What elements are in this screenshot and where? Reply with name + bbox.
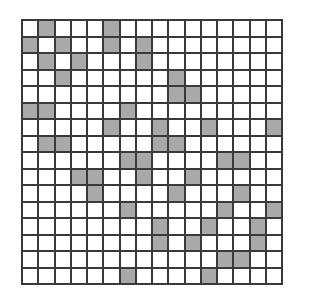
grid-cell-empty (71, 251, 87, 268)
grid-cell-filled (266, 202, 282, 219)
grid-cell-filled (71, 169, 87, 186)
grid-cell-filled (266, 119, 282, 136)
grid-cell-empty (71, 235, 87, 252)
grid-cell-empty (233, 37, 249, 54)
grid-cell-empty (136, 70, 152, 87)
grid-cell-empty (103, 103, 119, 120)
grid-cell-empty (38, 185, 54, 202)
grid-cell-empty (152, 169, 168, 186)
grid-cell-filled (217, 152, 233, 169)
grid-cell-empty (233, 268, 249, 285)
grid-cell-empty (168, 37, 184, 54)
grid-cell-filled (38, 136, 54, 153)
grid-cell-empty (266, 103, 282, 120)
grid-cell-empty (185, 37, 201, 54)
grid-cell-empty (217, 136, 233, 153)
grid-cell-empty (120, 37, 136, 54)
grid-cell-empty (233, 218, 249, 235)
grid-cell-filled (168, 86, 184, 103)
grid-cell-empty (87, 202, 103, 219)
grid-cell-empty (55, 235, 71, 252)
grid-cell-empty (250, 169, 266, 186)
grid-cell-filled (217, 251, 233, 268)
grid-cell-empty (217, 20, 233, 37)
grid-cell-empty (233, 53, 249, 70)
grid-cell-filled (136, 37, 152, 54)
grid-cell-filled (120, 103, 136, 120)
grid-cell-empty (22, 235, 38, 252)
grid-cell-empty (120, 53, 136, 70)
grid-cell-empty (38, 268, 54, 285)
grid-cell-empty (22, 20, 38, 37)
grid-cell-empty (136, 251, 152, 268)
grid-cell-empty (136, 20, 152, 37)
grid-cell-empty (55, 152, 71, 169)
grid-cell-empty (185, 20, 201, 37)
grid-cell-empty (22, 70, 38, 87)
grid-cell-empty (38, 202, 54, 219)
grid-cell-empty (103, 136, 119, 153)
grid-cell-empty (120, 70, 136, 87)
grid-cell-empty (266, 185, 282, 202)
grid-cell-empty (185, 70, 201, 87)
grid-cell-filled (22, 103, 38, 120)
grid-cell-empty (201, 202, 217, 219)
grid-cell-empty (55, 169, 71, 186)
grid-cell-empty (201, 103, 217, 120)
grid-cell-empty (87, 70, 103, 87)
grid-cell-filled (233, 152, 249, 169)
grid-cell-empty (55, 20, 71, 37)
grid-cell-empty (22, 119, 38, 136)
grid-cell-empty (266, 86, 282, 103)
grid-cell-filled (201, 119, 217, 136)
grid-cell-empty (266, 251, 282, 268)
grid-cell-empty (22, 86, 38, 103)
grid-cell-empty (217, 70, 233, 87)
grid-cell-filled (103, 20, 119, 37)
grid-cell-empty (185, 119, 201, 136)
grid-cell-empty (201, 169, 217, 186)
grid-cell-empty (55, 251, 71, 268)
grid-cell-filled (152, 136, 168, 153)
grid-cell-filled (152, 235, 168, 252)
grid-cell-empty (103, 268, 119, 285)
grid-cell-empty (103, 86, 119, 103)
grid-cell-filled (250, 218, 266, 235)
grid-cell-empty (120, 119, 136, 136)
grid-cell-empty (136, 218, 152, 235)
grid-cell-empty (250, 103, 266, 120)
grid-cell-empty (233, 20, 249, 37)
grid-cell-empty (38, 86, 54, 103)
grid-cell-empty (87, 136, 103, 153)
grid-cell-empty (233, 103, 249, 120)
grid-cell-empty (185, 251, 201, 268)
grid-cell-filled (185, 86, 201, 103)
grid-cell-empty (266, 268, 282, 285)
grid-cell-filled (55, 136, 71, 153)
grid-cell-empty (71, 185, 87, 202)
grid-cell-empty (152, 20, 168, 37)
grid-cell-empty (250, 20, 266, 37)
grid-cell-empty (22, 53, 38, 70)
grid-cell-empty (233, 86, 249, 103)
grid-cell-empty (168, 218, 184, 235)
grid-cell-empty (266, 152, 282, 169)
grid-cell-empty (201, 251, 217, 268)
grid-cell-empty (217, 119, 233, 136)
grid-cell-empty (152, 152, 168, 169)
grid-cell-empty (201, 235, 217, 252)
grid-cell-filled (55, 70, 71, 87)
grid-cell-empty (38, 70, 54, 87)
grid-cell-empty (22, 218, 38, 235)
grid-cell-empty (120, 169, 136, 186)
grid-cell-empty (201, 20, 217, 37)
grid-cell-empty (136, 86, 152, 103)
grid-cell-filled (233, 251, 249, 268)
grid-cell-empty (71, 86, 87, 103)
grid-cell-empty (38, 119, 54, 136)
grid-cell-empty (103, 218, 119, 235)
grid-cell-empty (87, 268, 103, 285)
grid-cell-empty (250, 53, 266, 70)
grid-cell-empty (168, 103, 184, 120)
grid-cell-empty (38, 152, 54, 169)
